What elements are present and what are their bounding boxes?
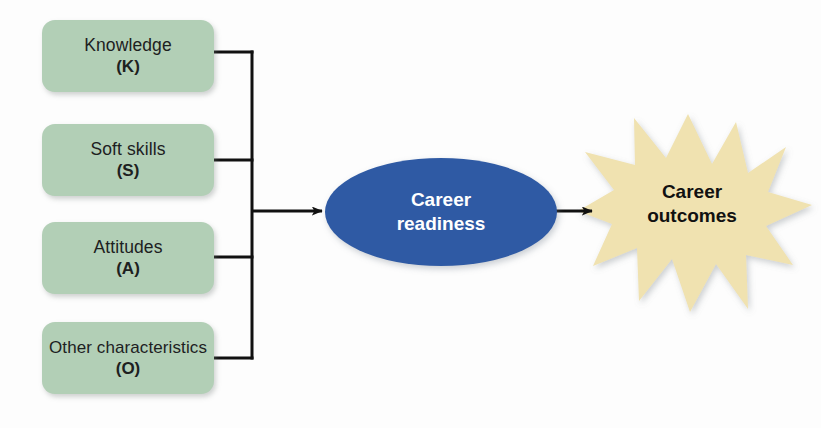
input-box-attitudes-label: Attitudes: [88, 238, 169, 258]
connector-bus: [214, 52, 252, 358]
input-box-soft-skills: Soft skills (S): [42, 124, 214, 196]
input-box-soft-skills-label: Soft skills: [84, 140, 171, 160]
diagram-canvas: Knowledge (K) Soft skills (S) Attitudes …: [0, 0, 821, 428]
input-box-soft-skills-code: (S): [117, 161, 140, 180]
input-box-knowledge: Knowledge (K): [42, 20, 214, 92]
career-readiness-line2: readiness: [397, 212, 486, 236]
input-box-knowledge-code: (K): [116, 57, 140, 76]
career-readiness-line1: Career: [411, 188, 471, 212]
input-box-knowledge-label: Knowledge: [78, 36, 178, 56]
input-box-attitudes-code: (A): [116, 259, 140, 278]
input-box-other-characteristics-label: Other characteristics: [43, 338, 213, 357]
input-box-other-characteristics-code: (O): [116, 359, 141, 378]
input-box-other-characteristics: Other characteristics (O): [42, 322, 214, 394]
career-readiness-node: Career readiness: [325, 158, 557, 266]
career-outcomes-starburst: [578, 114, 812, 312]
input-box-attitudes: Attitudes (A): [42, 222, 214, 294]
